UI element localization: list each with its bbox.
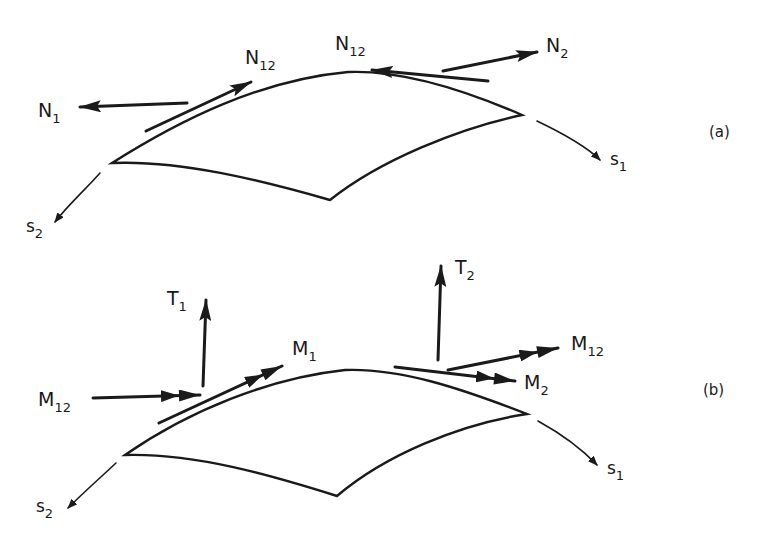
panel-b: T1 T2 M12 M1 M12 M2 s1 s2 (b) xyxy=(36,256,724,521)
m12-arrow-right xyxy=(448,348,558,370)
n12-arrow-left xyxy=(146,82,251,131)
m12-arrow-left xyxy=(93,395,200,398)
m1-label: M1 xyxy=(292,337,317,364)
s2-axis-a xyxy=(55,173,100,222)
n2-label: N2 xyxy=(546,34,569,61)
s2-label-a: s2 xyxy=(26,216,43,241)
m2-label: M2 xyxy=(524,371,549,398)
n12-label-top: N12 xyxy=(335,32,366,59)
n1-arrow xyxy=(80,103,187,107)
n12-label-left: N12 xyxy=(245,46,276,73)
panel-a: N1 N12 N12 N2 s1 s2 (a) xyxy=(26,32,730,241)
shell-surface-a xyxy=(112,72,522,200)
s2-axis-b xyxy=(68,463,116,508)
t2-label: T2 xyxy=(454,256,475,283)
panel-b-label: (b) xyxy=(703,381,724,399)
t1-label: T1 xyxy=(166,287,187,314)
m12-label-left: M12 xyxy=(38,388,71,415)
s1-axis-a xyxy=(537,121,600,160)
shell-element-diagram: N1 N12 N12 N2 s1 s2 (a) T1 T2 M12 M1 M12… xyxy=(0,0,765,544)
s1-label-a: s1 xyxy=(610,149,627,174)
t1-arrow xyxy=(203,300,206,386)
s2-label-b: s2 xyxy=(36,496,53,521)
n12-arrow-top xyxy=(372,70,488,81)
s1-axis-b xyxy=(538,421,597,465)
shell-surface-b xyxy=(125,370,527,496)
m12-label-right: M12 xyxy=(571,332,604,359)
panel-a-label: (a) xyxy=(709,123,730,141)
t2-arrow xyxy=(438,266,441,360)
n1-label: N1 xyxy=(38,99,61,126)
s1-label-b: s1 xyxy=(607,458,624,483)
n2-arrow xyxy=(443,52,537,71)
